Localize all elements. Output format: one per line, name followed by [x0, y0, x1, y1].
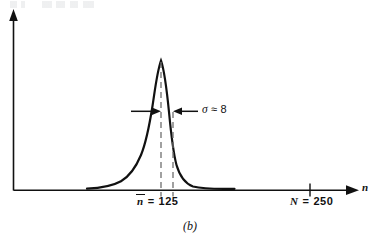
sigma-relation: ≈ — [211, 103, 217, 115]
sigma-left-arrow — [131, 108, 161, 115]
total-relation: = — [302, 195, 309, 207]
x-axis-label: n — [362, 182, 368, 193]
total-axis-label: N=250 — [290, 196, 333, 207]
total-value: 250 — [313, 195, 333, 207]
y-axis — [9, 9, 18, 191]
mean-value: 125 — [159, 195, 179, 207]
sigma-right-arrow — [173, 108, 198, 115]
sigma-value: 8 — [221, 103, 228, 115]
total-symbol: N — [290, 195, 298, 207]
mean-axis-label: n=125 — [137, 196, 178, 207]
mean-symbol: n — [137, 196, 144, 207]
figure-caption: (b) — [183, 220, 197, 232]
x-axis — [14, 185, 360, 195]
figure-panel-b: n σ≈8 n=125 N=250 (b) — [0, 0, 379, 238]
sigma-annotation-label: σ≈8 — [202, 104, 227, 116]
mean-relation: = — [148, 195, 155, 207]
sigma-symbol: σ — [202, 103, 208, 115]
